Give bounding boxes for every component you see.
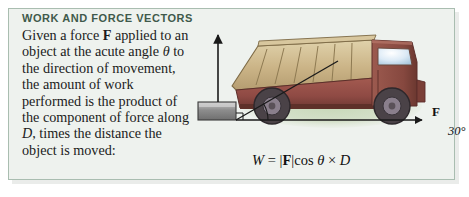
body-line-7-italic-D: D xyxy=(22,125,32,141)
pulled-block xyxy=(198,102,236,120)
force-vector-label: F xyxy=(432,104,440,120)
cab-window xyxy=(378,48,412,65)
body-line-9: moved: xyxy=(73,142,116,158)
formula-equals: = xyxy=(268,152,276,168)
angle-label: 30° xyxy=(448,124,466,139)
body-copy: Given a force F applied to an object at … xyxy=(22,27,190,158)
formula-times: × xyxy=(328,152,336,168)
body-line-1-post: applied xyxy=(111,27,156,43)
text-column: WORK AND FORCE VECTORS Given a force F a… xyxy=(22,12,190,158)
work-formula: W = |F|cos θ × D xyxy=(252,152,350,169)
panel-heading: WORK AND FORCE VECTORS xyxy=(22,12,190,24)
figure-page: WORK AND FORCE VECTORS Given a force F a… xyxy=(0,0,469,197)
body-line-1-pre: Given a force xyxy=(22,27,103,43)
truck-front-wheel xyxy=(374,88,410,124)
formula-f: F xyxy=(282,152,291,168)
truck-bumper xyxy=(417,80,425,102)
formula-d: D xyxy=(340,152,350,168)
body-line-3-theta: θ xyxy=(163,43,170,59)
formula-cos: cos xyxy=(294,152,317,168)
body-line-7-pre: of force along xyxy=(109,109,189,125)
formula-w: W xyxy=(252,152,264,168)
body-line-7-post: , times xyxy=(32,125,70,141)
body-line-3-pre: angle xyxy=(128,43,162,59)
formula-theta: θ xyxy=(317,152,324,168)
work-force-illustration: F 30° D |F|cos θ xyxy=(196,18,458,146)
